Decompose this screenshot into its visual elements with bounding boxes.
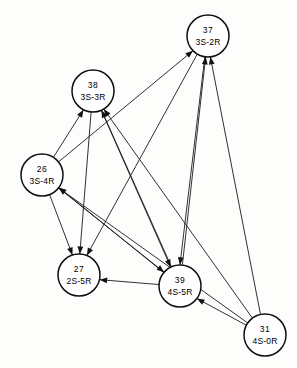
node-27[interactable]: 272S-5R — [58, 254, 100, 296]
node-code-label-31: 4S-0R — [252, 336, 277, 346]
node-31[interactable]: 314S-0R — [244, 314, 286, 356]
node-39[interactable]: 394S-5R — [159, 265, 201, 307]
nodes-layer: 373S-2R383S-3R263S-4R272S-5R394S-5R314S-… — [21, 15, 286, 356]
graph-canvas: 373S-2R383S-3R263S-4R272S-5R394S-5R314S-… — [0, 0, 297, 368]
edge-39-to-37 — [182, 57, 205, 265]
edge-39-to-27 — [100, 280, 159, 285]
edge-26-to-27 — [50, 195, 73, 255]
node-id-label-31: 31 — [260, 324, 271, 334]
arrowhead-37-to-27 — [87, 247, 93, 255]
node-id-label-27: 27 — [74, 264, 85, 274]
edge-31-to-37 — [210, 57, 260, 315]
node-id-label-39: 39 — [175, 275, 186, 285]
arrowhead-26-to-39 — [156, 265, 164, 272]
node-code-label-26: 3S-4R — [29, 176, 54, 186]
node-id-label-38: 38 — [88, 80, 99, 90]
node-id-label-37: 37 — [203, 25, 214, 35]
node-code-label-37: 3S-2R — [195, 37, 220, 47]
edge-38-to-27 — [80, 112, 91, 254]
arrowhead-26-to-38 — [77, 110, 83, 118]
arrowhead-26-to-37 — [185, 51, 193, 58]
node-code-label-38: 3S-3R — [80, 92, 105, 102]
node-code-label-27: 2S-5R — [66, 276, 91, 286]
arrowhead-31-to-39 — [197, 299, 205, 305]
node-code-label-39: 4S-5R — [167, 287, 192, 297]
arrowhead-26-to-27 — [67, 247, 72, 255]
node-37[interactable]: 373S-2R — [187, 15, 229, 57]
arrowhead-39-to-27 — [100, 278, 108, 284]
node-26[interactable]: 263S-4R — [21, 154, 63, 196]
edge-26-to-38 — [53, 110, 83, 158]
edge-31-to-39 — [197, 299, 246, 326]
arrowhead-31-to-37 — [209, 57, 215, 65]
diagram-container: 373S-2R383S-3R263S-4R272S-5R394S-5R314S-… — [0, 0, 297, 368]
node-38[interactable]: 383S-3R — [72, 70, 114, 112]
arrowhead-38-to-27 — [77, 246, 83, 254]
node-id-label-26: 26 — [37, 164, 48, 174]
